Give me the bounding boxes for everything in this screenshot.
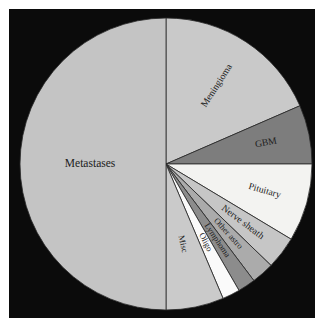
pie-chart: MeningiomaGBMPituitaryNerve sheathOther … — [9, 9, 315, 318]
pie-slices — [20, 18, 312, 310]
pie-chart-svg: MeningiomaGBMPituitaryNerve sheathOther … — [9, 9, 315, 318]
chart-frame: MeningiomaGBMPituitaryNerve sheathOther … — [9, 9, 315, 318]
pie-slice-label-metastases: Metastases — [65, 157, 116, 169]
